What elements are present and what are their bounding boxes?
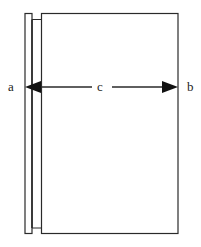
arrowhead-left — [25, 81, 41, 93]
diagram-canvas: a c b — [0, 0, 201, 247]
label-c: c — [97, 79, 103, 94]
main-panel — [42, 14, 179, 234]
label-a: a — [8, 79, 14, 94]
left-outer-panel — [25, 14, 32, 234]
arrowhead-right — [162, 81, 178, 93]
label-b: b — [187, 79, 194, 94]
